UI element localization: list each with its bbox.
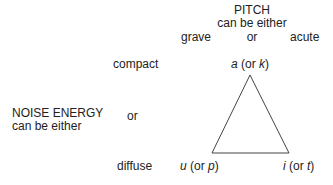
vowel-triangle <box>0 0 333 185</box>
triangle-shape <box>212 75 289 153</box>
